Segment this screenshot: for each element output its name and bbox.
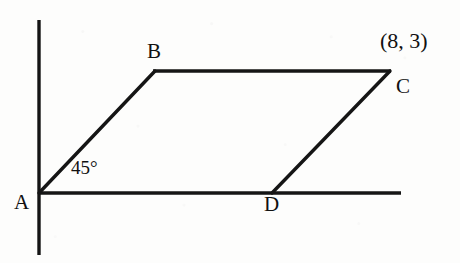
coordinate-label-c: (8, 3) (380, 30, 428, 52)
vertex-label-d: D (264, 194, 279, 215)
angle-label-45-degrees: 45° (71, 158, 98, 177)
segment-cd (272, 71, 390, 193)
vertex-label-b: B (147, 41, 161, 62)
vertex-label-c: C (396, 76, 410, 97)
geometry-figure: A B C D 45° (8, 3) (0, 0, 460, 263)
vertex-label-a: A (14, 192, 29, 213)
